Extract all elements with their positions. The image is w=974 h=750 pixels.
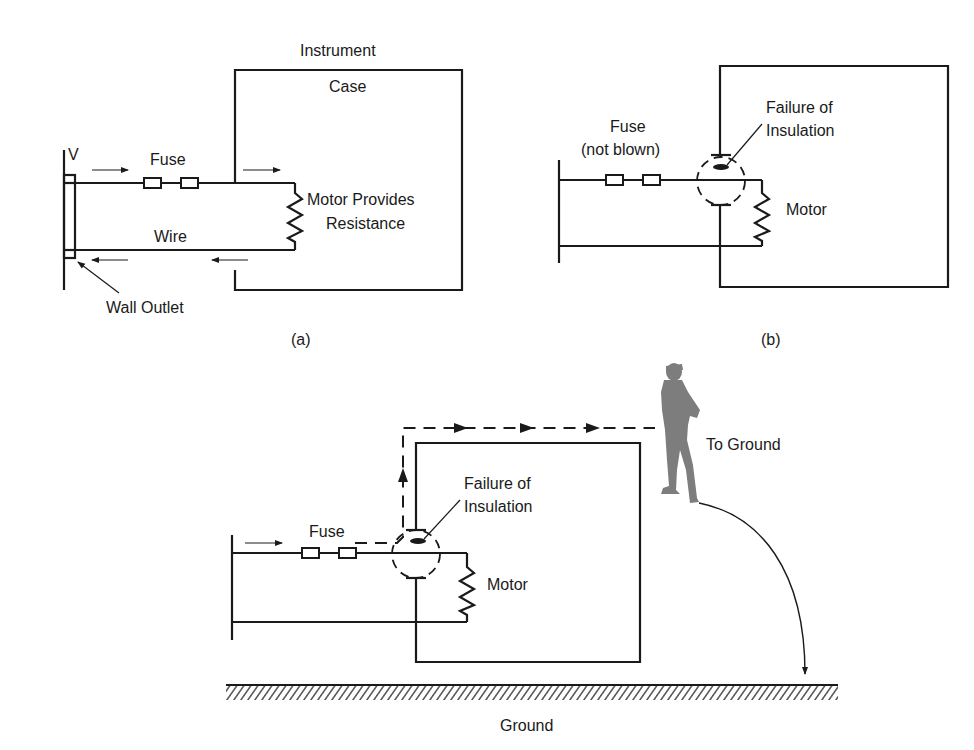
wall-outlet-leader xyxy=(78,262,119,293)
label-motor: Motor xyxy=(487,576,529,593)
instrument-case xyxy=(720,66,948,287)
label-not-blown: (not blown) xyxy=(581,141,660,158)
label-fuse: Fuse xyxy=(150,151,186,168)
fuse-1 xyxy=(606,175,623,185)
fault-arrow-up-icon xyxy=(398,468,408,482)
label-insulation: Insulation xyxy=(464,498,533,515)
insulation-failure-mark xyxy=(713,164,729,170)
fault-arrow-right-icon xyxy=(586,423,600,433)
fault-arrow-right-icon xyxy=(520,423,534,433)
fuse-1 xyxy=(302,548,319,558)
fuse-2 xyxy=(643,175,660,185)
insulation-failure-mark xyxy=(410,538,426,544)
label-ground: Ground xyxy=(500,717,553,734)
electrical-safety-diagram: Instrument Case V Fuse Motor Provides Re… xyxy=(0,0,974,750)
panel-a: Instrument Case V Fuse Motor Provides Re… xyxy=(64,42,462,348)
panel-b: Fuse (not blown) Failure of Insulation M… xyxy=(559,66,948,348)
caption-a: (a) xyxy=(291,331,311,348)
label-insulation: Insulation xyxy=(766,122,835,139)
label-voltage: V xyxy=(68,146,79,163)
label-instrument: Instrument xyxy=(300,42,376,59)
label-wall-outlet: Wall Outlet xyxy=(106,299,184,316)
wall-outlet-box xyxy=(64,175,75,258)
motor-resistor xyxy=(460,553,474,622)
failure-leader xyxy=(424,500,460,539)
ground-hatch xyxy=(226,686,838,700)
label-case: Case xyxy=(329,78,366,95)
fuse-2 xyxy=(181,178,198,188)
label-wire: Wire xyxy=(154,228,187,245)
label-motor: Motor xyxy=(786,201,828,218)
failure-leader xyxy=(727,124,762,165)
fault-arrow-right-icon xyxy=(454,423,468,433)
label-failure-of: Failure of xyxy=(766,99,833,116)
panel-c: Fuse Failure of Insulation Motor To Grou… xyxy=(226,363,838,734)
instrument-case xyxy=(235,70,462,290)
motor-resistor xyxy=(288,183,302,250)
label-fuse: Fuse xyxy=(610,118,646,135)
fuse-1 xyxy=(144,178,161,188)
fuse-2 xyxy=(339,548,356,558)
label-motor-provides: Motor Provides xyxy=(307,191,415,208)
label-failure-of: Failure of xyxy=(464,475,531,492)
label-resistance: Resistance xyxy=(326,215,405,232)
motor-resistor xyxy=(755,180,769,246)
label-to-ground: To Ground xyxy=(706,436,781,453)
label-fuse: Fuse xyxy=(309,523,345,540)
person-silhouette-icon xyxy=(661,363,700,503)
caption-b: (b) xyxy=(761,331,781,348)
ground-path-curve xyxy=(699,503,805,674)
